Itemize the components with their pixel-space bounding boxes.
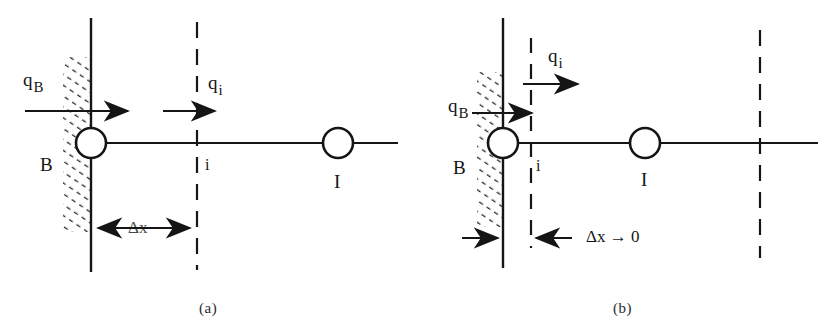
label-flux-qB-base: q xyxy=(23,69,33,90)
label-node-B: B xyxy=(40,155,53,174)
node-circle-B xyxy=(76,128,106,158)
label-node-i: i xyxy=(536,158,540,174)
label-node-I: I xyxy=(334,172,340,191)
panel-b-drawing xyxy=(420,0,840,335)
label-flux-qi: qi xyxy=(548,46,562,65)
figure-panel-b: qB qi B i I Δx → 0 (b) xyxy=(420,0,840,335)
panel-a-drawing xyxy=(0,0,420,335)
figure-panel-a: qB qi B i I Δx (a) xyxy=(0,0,420,335)
label-flux-qB-sub: B xyxy=(34,79,44,95)
label-dimension-deltax: Δx xyxy=(128,219,147,236)
node-circle-B xyxy=(488,128,518,158)
label-flux-qi-sub: i xyxy=(559,55,563,71)
panel-caption-b: (b) xyxy=(613,300,632,317)
label-flux-qi-base: q xyxy=(208,72,218,93)
label-flux-qi-sub: i xyxy=(219,82,223,98)
node-circle-I xyxy=(630,128,660,158)
label-flux-qi-base: q xyxy=(548,45,558,66)
label-flux-qB-sub: B xyxy=(459,105,469,121)
label-flux-qi: qi xyxy=(208,73,222,92)
label-flux-qB-base: q xyxy=(448,95,458,116)
label-dimension-deltax: Δx → 0 xyxy=(586,228,639,245)
label-node-i: i xyxy=(205,157,209,173)
figure-canvas: qB qi B i I Δx (a) xyxy=(0,0,840,335)
label-flux-qB: qB xyxy=(23,70,43,89)
label-flux-qB: qB xyxy=(448,96,468,115)
label-node-I: I xyxy=(641,170,647,189)
panel-caption-a: (a) xyxy=(199,300,217,317)
node-circle-I xyxy=(323,128,353,158)
label-node-B: B xyxy=(453,158,466,177)
